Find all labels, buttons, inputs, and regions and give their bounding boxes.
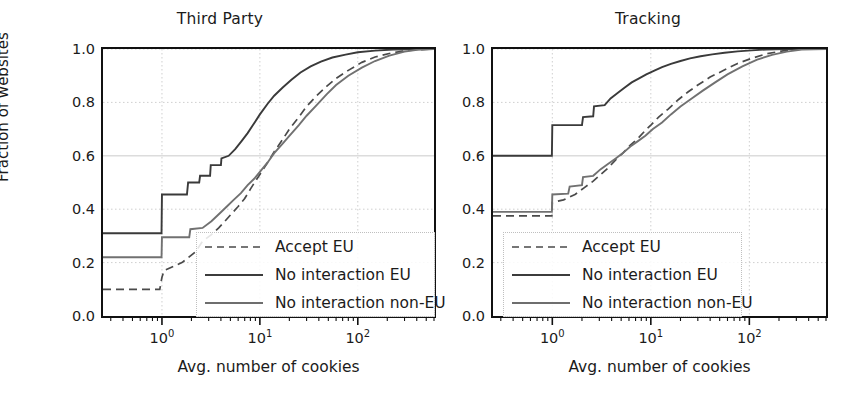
x-tick-label: 100 bbox=[540, 328, 565, 346]
legend-key-no-interaction-eu bbox=[203, 268, 265, 282]
series-line bbox=[103, 49, 434, 257]
x-tick-label: 100 bbox=[150, 328, 175, 346]
series-line bbox=[493, 49, 826, 216]
y-tick-label: 0.8 bbox=[447, 94, 485, 110]
x-tick-label: 101 bbox=[638, 328, 663, 346]
legend-label-no-interaction-non-eu: No interaction non-EU bbox=[582, 294, 753, 312]
x-axis-label-right: Avg. number of cookies bbox=[491, 358, 828, 376]
legend-key-accept-eu bbox=[510, 240, 572, 254]
legend-key-no-interaction-eu bbox=[510, 268, 572, 282]
y-tick-label: 1.0 bbox=[57, 41, 95, 57]
legend-item: No interaction non-EU bbox=[197, 289, 434, 317]
x-tick-label: 101 bbox=[247, 328, 272, 346]
panel-third-party: Third Party Fraction of websites 0.00.20… bbox=[0, 0, 440, 396]
legend-right: Accept EU No interaction EU No interacti… bbox=[503, 232, 742, 317]
x-axis-tick-marks bbox=[491, 316, 828, 330]
x-axis-tick-marks bbox=[101, 316, 436, 330]
legend-key-no-interaction-non-eu bbox=[510, 296, 572, 310]
figure-cdf-cookies: Third Party Fraction of websites 0.00.20… bbox=[0, 0, 868, 396]
legend-item: No interaction EU bbox=[197, 261, 434, 289]
y-tick-label: 0.4 bbox=[57, 201, 95, 217]
legend-label-no-interaction-eu: No interaction EU bbox=[275, 266, 411, 284]
y-axis-label: Fraction of websites bbox=[0, 32, 12, 182]
legend-item: Accept EU bbox=[197, 233, 434, 261]
y-tick-label: 0.4 bbox=[447, 201, 485, 217]
series-line bbox=[493, 49, 826, 156]
x-tick-label: 102 bbox=[737, 328, 762, 346]
legend-label-no-interaction-eu: No interaction EU bbox=[582, 266, 718, 284]
y-tick-label: 0.0 bbox=[57, 308, 95, 324]
legend-label-accept-eu: Accept EU bbox=[275, 238, 354, 256]
y-tick-label: 0.8 bbox=[57, 94, 95, 110]
series-line bbox=[493, 49, 826, 212]
legend-label-no-interaction-non-eu: No interaction non-EU bbox=[275, 294, 446, 312]
y-tick-label: 0.2 bbox=[447, 255, 485, 271]
legend-item: No interaction EU bbox=[504, 261, 741, 289]
panel-title-tracking: Tracking bbox=[428, 10, 868, 28]
legend-key-accept-eu bbox=[203, 240, 265, 254]
legend-item: Accept EU bbox=[504, 233, 741, 261]
x-axis-label-left: Avg. number of cookies bbox=[101, 358, 436, 376]
legend-left: Accept EU No interaction EU No interacti… bbox=[196, 232, 435, 317]
panel-tracking: Tracking 0.00.20.40.60.81.0 100101102 Av… bbox=[428, 0, 868, 396]
y-tick-label: 1.0 bbox=[447, 41, 485, 57]
y-tick-label: 0.0 bbox=[447, 308, 485, 324]
y-tick-label: 0.6 bbox=[57, 148, 95, 164]
legend-key-no-interaction-non-eu bbox=[203, 296, 265, 310]
y-tick-label: 0.2 bbox=[57, 255, 95, 271]
x-tick-label: 102 bbox=[345, 328, 370, 346]
y-tick-label: 0.6 bbox=[447, 148, 485, 164]
legend-item: No interaction non-EU bbox=[504, 289, 741, 317]
legend-label-accept-eu: Accept EU bbox=[582, 238, 661, 256]
panel-title-third-party: Third Party bbox=[0, 10, 440, 28]
series-line bbox=[103, 49, 434, 233]
